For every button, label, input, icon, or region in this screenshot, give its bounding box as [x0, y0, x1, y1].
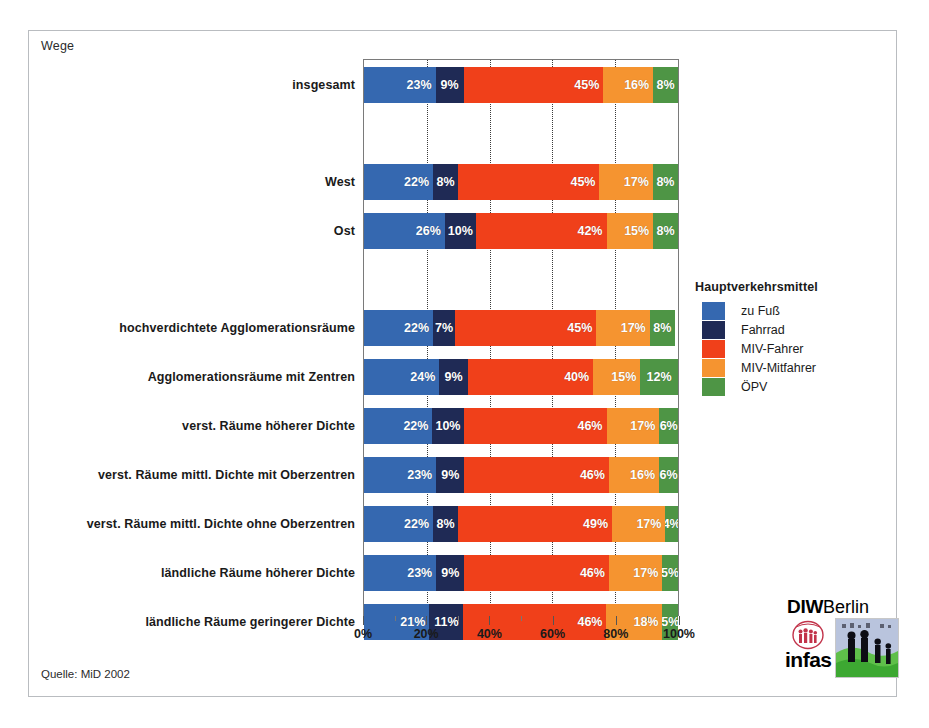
bar-segment[interactable]: 46% [464, 408, 607, 444]
bar-segment[interactable]: 22% [364, 506, 433, 542]
legend-swatch-icon [702, 302, 725, 320]
bar-segment[interactable]: 49% [458, 506, 612, 542]
bar-row[interactable]: ländliche Räume höherer Dichte23%9%46%17… [364, 555, 678, 591]
logo-diw-text: DIWBerlin [787, 596, 869, 618]
bar-segment[interactable]: 46% [464, 457, 608, 493]
legend-item[interactable]: zu Fuß [695, 301, 885, 320]
bar-row[interactable]: verst. Räume mittl. Dichte ohne Oberzent… [364, 506, 678, 542]
chart-figure-frame: Wege insgesamt23%9%45%16%8%West22%8%45%1… [28, 30, 897, 697]
legend-swatch-icon [702, 378, 725, 396]
bar-segment[interactable]: 9% [436, 555, 464, 591]
bar-row[interactable]: Agglomerationsräume mit Zentren24%9%40%1… [364, 359, 678, 395]
bar-segment[interactable]: 6% [659, 408, 678, 444]
bar-segment[interactable]: 16% [609, 457, 659, 493]
legend-item-label: zu Fuß [741, 304, 780, 318]
bar-row-label: hochverdichtete Agglomerationsräume [119, 321, 355, 335]
bar-row-label: Agglomerationsräume mit Zentren [148, 370, 355, 384]
diw-infas-logo: DIWBerlin [779, 596, 899, 678]
bar-segment[interactable]: 8% [653, 164, 678, 200]
axis-tick-major [679, 616, 680, 625]
bar-segment[interactable]: 17% [612, 506, 665, 542]
axis-tick-label: 40% [477, 627, 502, 641]
bar-segment[interactable]: 22% [364, 408, 432, 444]
bar-segment[interactable]: 17% [609, 555, 662, 591]
bar-segment[interactable]: 9% [436, 67, 464, 103]
bar-segment[interactable]: 22% [364, 164, 433, 200]
axis-tick-label: 0% [354, 627, 372, 641]
bar-segment[interactable]: 23% [364, 555, 436, 591]
bar-segment[interactable]: 46% [464, 555, 608, 591]
bar-segment[interactable]: 8% [433, 164, 458, 200]
bar-segment[interactable]: 42% [476, 213, 607, 249]
legend-swatch-icon [702, 359, 725, 377]
bar-segment[interactable]: 16% [603, 67, 653, 103]
bar-row-label: verst. Räume höherer Dichte [182, 419, 355, 433]
axis-tick-major [616, 616, 617, 625]
logo-berlin-word: Berlin [823, 597, 869, 617]
legend-items: zu FußFahrradMIV-FahrerMIV-MitfahrerÖPV [695, 301, 885, 396]
bar-row-label: ländliche Räume höherer Dichte [161, 566, 355, 580]
bar-segment[interactable]: 26% [364, 213, 445, 249]
legend-item[interactable]: ÖPV [695, 377, 885, 396]
bar-row[interactable]: Ost26%10%42%15%8% [364, 213, 678, 249]
bar-row-label: insgesamt [292, 78, 355, 92]
bar-segment[interactable]: 10% [432, 408, 463, 444]
bar-segment[interactable]: 6% [659, 457, 678, 493]
bar-segment[interactable]: 4% [665, 506, 678, 542]
axis-tick-minor [584, 616, 585, 621]
plot-area: insgesamt23%9%45%16%8%West22%8%45%17%8%O… [363, 59, 679, 616]
axis-tick-minor [458, 616, 459, 621]
bar-segment[interactable]: 12% [640, 359, 678, 395]
bar-segment[interactable]: 17% [607, 408, 660, 444]
bar-segment[interactable]: 40% [468, 359, 594, 395]
bar-segment[interactable]: 8% [653, 213, 678, 249]
bar-segment[interactable]: 8% [650, 310, 675, 346]
bar-row-label: ländliche Räume geringerer Dichte [145, 615, 355, 629]
legend-swatch-icon [702, 340, 725, 358]
x-axis: 0%20%40%60%80%100% [363, 616, 679, 656]
legend-item[interactable]: MIV-Mitfahrer [695, 358, 885, 377]
bar-segment[interactable]: 10% [445, 213, 476, 249]
bar-row[interactable]: insgesamt23%9%45%16%8% [364, 67, 678, 103]
legend-item-label: Fahrrad [741, 323, 785, 337]
bar-segment[interactable]: 15% [593, 359, 640, 395]
legend-item-label: ÖPV [741, 380, 767, 394]
bar-segment[interactable]: 8% [653, 67, 678, 103]
bar-segment[interactable]: 45% [455, 310, 596, 346]
bar-row[interactable]: West22%8%45%17%8% [364, 164, 678, 200]
bar-row[interactable]: verst. Räume mittl. Dichte mit Oberzentr… [364, 457, 678, 493]
bar-segment[interactable]: 17% [599, 164, 652, 200]
bar-row[interactable]: verst. Räume höherer Dichte22%10%46%17%6… [364, 408, 678, 444]
bar-segment[interactable]: 23% [364, 457, 436, 493]
bar-segment[interactable]: 45% [464, 67, 604, 103]
bar-segment[interactable]: 7% [433, 310, 455, 346]
axis-tick-label: 100% [663, 627, 695, 641]
legend-title: Hauptverkehrsmittel [695, 280, 885, 294]
axis-tick-label: 20% [414, 627, 439, 641]
axis-tick-minor [395, 616, 396, 621]
legend-swatch-icon [702, 321, 725, 339]
bar-segment[interactable]: 22% [364, 310, 433, 346]
bar-segment[interactable]: 17% [596, 310, 649, 346]
logo-infas-text: infas [785, 648, 832, 672]
bar-segment[interactable]: 5% [662, 555, 678, 591]
chart-legend: Hauptverkehrsmittel zu FußFahrradMIV-Fah… [695, 280, 885, 396]
legend-item-label: MIV-Fahrer [741, 342, 804, 356]
legend-item[interactable]: Fahrrad [695, 320, 885, 339]
legend-item[interactable]: MIV-Fahrer [695, 339, 885, 358]
chart-caption: Wege [41, 39, 74, 53]
bar-segment[interactable]: 23% [364, 67, 436, 103]
bar-segment[interactable]: 9% [439, 359, 467, 395]
bar-segment[interactable]: 45% [458, 164, 599, 200]
axis-tick-label: 60% [540, 627, 565, 641]
bar-segment[interactable]: 15% [607, 213, 654, 249]
bar-segment[interactable]: 8% [433, 506, 458, 542]
legend-item-label: MIV-Mitfahrer [741, 361, 816, 375]
logo-photo-graphic [835, 618, 899, 678]
axis-tick-major [363, 616, 364, 625]
bar-rows-layer: insgesamt23%9%45%16%8%West22%8%45%17%8%O… [364, 59, 678, 615]
bar-segment[interactable]: 24% [364, 359, 439, 395]
bar-segment[interactable]: 9% [436, 457, 464, 493]
bar-row-label: Ost [334, 224, 355, 238]
bar-row[interactable]: hochverdichtete Agglomerationsräume22%7%… [364, 310, 678, 346]
